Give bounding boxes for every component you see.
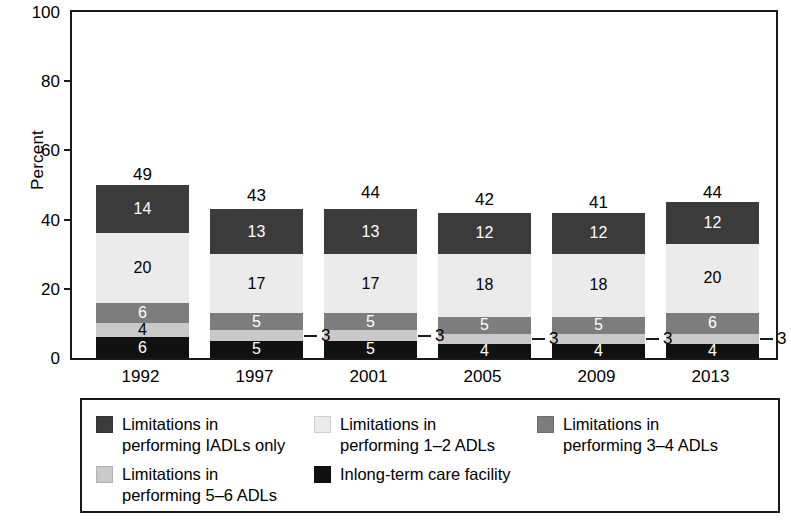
x-axis-tick-label: 2005 xyxy=(423,368,543,385)
segment-value-label: 18 xyxy=(476,277,494,293)
y-axis-tick-label: 100 xyxy=(14,4,60,21)
bar-total-label: 41 xyxy=(552,194,645,211)
segment-value-label: 5 xyxy=(252,341,261,357)
bar-segment: 3 xyxy=(210,330,303,340)
segment-value-label: 5 xyxy=(366,341,375,357)
segment-value-label: 6 xyxy=(708,315,717,331)
segment-value-label: 5 xyxy=(366,314,375,330)
value-callout: 3 xyxy=(418,329,444,343)
legend-row-2: Limitations in performing 5–6 ADLs Inlon… xyxy=(82,458,778,510)
y-axis-title: Percent xyxy=(28,100,48,220)
segment-value-label: 5 xyxy=(480,317,489,333)
legend-swatch-iadls-only xyxy=(96,416,113,433)
callout-value: 3 xyxy=(663,330,672,347)
segment-value-label: 12 xyxy=(590,225,608,241)
legend-label-1-2-adls: Limitations in performing 1–2 ADLs xyxy=(340,414,495,456)
x-axis-tick-label: 1992 xyxy=(81,368,201,385)
bar-segment: 20 xyxy=(96,233,189,302)
stacked-bar-chart: Percent 020406080100 6462014535171353517… xyxy=(0,0,791,392)
segment-value-label: 4 xyxy=(594,343,603,359)
bar-segment: 5 xyxy=(210,313,303,330)
x-axis-tick-label: 1997 xyxy=(195,368,315,385)
legend-item-iadls-only[interactable]: Limitations in performing IADLs only xyxy=(96,414,306,456)
bar-2009[interactable]: 4351812 xyxy=(552,213,645,358)
value-callout: 3 xyxy=(760,332,786,346)
legend-label-iadls-only: Limitations in performing IADLs only xyxy=(122,414,285,456)
bar-total-label: 43 xyxy=(210,187,303,204)
segment-value-label: 13 xyxy=(362,224,380,240)
bar-2001[interactable]: 5351713 xyxy=(324,209,417,358)
bar-segment: 4 xyxy=(96,323,189,337)
bar-segment: 18 xyxy=(552,254,645,316)
bar-segment: 4 xyxy=(666,344,759,358)
segment-value-label: 13 xyxy=(248,224,266,240)
callout-value: 3 xyxy=(777,330,786,347)
callout-leader-line xyxy=(532,338,545,340)
bar-total-label: 44 xyxy=(324,184,417,201)
bar-1997[interactable]: 5351713 xyxy=(210,209,303,358)
bar-segment: 4 xyxy=(438,344,531,358)
segment-value-label: 18 xyxy=(590,277,608,293)
segment-value-label: 4 xyxy=(138,322,147,338)
x-axis-tick-label: 2009 xyxy=(537,368,657,385)
legend-label-long-term-care: Inlong-term care facility xyxy=(340,464,511,485)
y-axis-tick-label: 0 xyxy=(14,350,60,367)
bar-segment: 12 xyxy=(666,202,759,244)
legend-label-3-4-adls: Limitations in performing 3–4 ADLs xyxy=(563,414,718,456)
bar-segment: 17 xyxy=(324,254,417,313)
bar-segment: 18 xyxy=(438,254,531,316)
segment-value-label: 5 xyxy=(594,317,603,333)
legend-item-5-6-adls[interactable]: Limitations in performing 5–6 ADLs xyxy=(96,464,306,506)
bar-segment: 5 xyxy=(324,341,417,358)
legend-row-1: Limitations in performing IADLs only Lim… xyxy=(82,408,778,460)
callout-leader-line xyxy=(304,335,317,337)
bar-segment: 14 xyxy=(96,185,189,233)
segment-value-label: 20 xyxy=(704,270,722,286)
value-callout: 3 xyxy=(646,332,672,346)
bar-segment: 4 xyxy=(552,344,645,358)
bar-segment: 5 xyxy=(324,313,417,330)
legend-item-1-2-adls[interactable]: Limitations in performing 1–2 ADLs xyxy=(314,414,529,456)
legend-swatch-1-2-adls xyxy=(314,416,331,433)
value-callout: 3 xyxy=(304,329,330,343)
segment-value-label: 12 xyxy=(704,215,722,231)
legend-item-long-term-care[interactable]: Inlong-term care facility xyxy=(314,464,614,485)
segment-value-label: 6 xyxy=(138,305,147,321)
bar-1992[interactable]: 6462014 xyxy=(96,185,189,358)
bar-segment: 12 xyxy=(552,213,645,255)
segment-value-label: 20 xyxy=(134,260,152,276)
plot-area: 6462014535171353517134351812435181243620… xyxy=(70,10,778,360)
value-callout: 3 xyxy=(532,332,558,346)
bar-segment: 6 xyxy=(96,303,189,324)
bar-segment: 17 xyxy=(210,254,303,313)
segment-value-label: 4 xyxy=(480,343,489,359)
bar-2013[interactable]: 4362012 xyxy=(666,202,759,358)
legend-label-5-6-adls: Limitations in performing 5–6 ADLs xyxy=(122,464,277,506)
segment-value-label: 12 xyxy=(476,225,494,241)
bar-segment: 5 xyxy=(438,317,531,334)
chart-legend: Limitations in performing IADLs only Lim… xyxy=(80,398,780,513)
bar-segment: 20 xyxy=(666,244,759,313)
legend-item-3-4-adls[interactable]: Limitations in performing 3–4 ADLs xyxy=(537,414,767,456)
y-axis-tick-label: 80 xyxy=(14,73,60,90)
bar-2005[interactable]: 4351812 xyxy=(438,213,531,358)
bar-segment: 6 xyxy=(666,313,759,334)
bar-segment: 5 xyxy=(552,317,645,334)
bar-segment: 6 xyxy=(96,337,189,358)
segment-value-label: 17 xyxy=(362,276,380,292)
y-axis-tick-label: 60 xyxy=(14,142,60,159)
y-axis-tick-label: 40 xyxy=(14,211,60,228)
bar-segment: 5 xyxy=(210,341,303,358)
callout-value: 3 xyxy=(549,330,558,347)
segment-value-label: 4 xyxy=(708,343,717,359)
bar-total-label: 49 xyxy=(96,166,189,183)
x-axis-tick-label: 2013 xyxy=(651,368,771,385)
legend-swatch-long-term-care xyxy=(314,466,331,483)
segment-value-label: 14 xyxy=(134,201,152,217)
callout-value: 3 xyxy=(435,327,444,344)
bar-total-label: 42 xyxy=(438,191,531,208)
bar-total-label: 44 xyxy=(666,184,759,201)
legend-swatch-3-4-adls xyxy=(537,416,554,433)
segment-value-label: 6 xyxy=(138,340,147,356)
bar-segment: 13 xyxy=(324,209,417,254)
